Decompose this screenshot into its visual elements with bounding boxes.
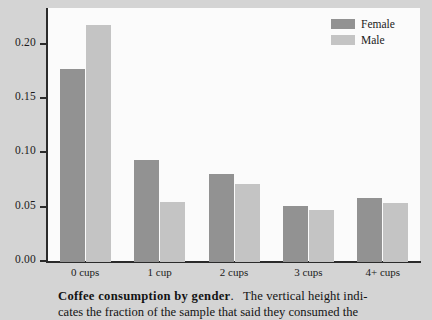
y-tick-label: 0.20 <box>0 36 36 48</box>
bar-female-1-cup <box>134 160 159 262</box>
caption-body: The vertical height indi- <box>243 289 368 303</box>
caption-title-suffix: . <box>230 289 233 303</box>
y-tick-mark <box>40 260 47 262</box>
legend-swatch <box>331 35 355 45</box>
legend-label: Female <box>361 18 395 30</box>
y-tick-mark <box>40 151 47 153</box>
y-tick-label: 0.10 <box>0 144 36 156</box>
bar-female-2-cups <box>209 174 234 262</box>
y-tick-mark <box>40 43 47 45</box>
y-tick-label: 0.00 <box>0 253 36 265</box>
legend-item: Female <box>331 17 395 31</box>
caption-title: Coffee consumption by gender <box>58 289 230 303</box>
x-tick-label: 2 cups <box>196 266 272 278</box>
bar-female-0-cups <box>60 69 85 262</box>
bar-female-4-cups <box>357 198 382 262</box>
x-tick-label: 1 cup <box>122 266 198 278</box>
bar-male-2-cups <box>235 184 260 262</box>
y-tick-mark <box>40 206 47 208</box>
bar-female-3-cups <box>283 206 308 262</box>
x-tick-label: 3 cups <box>270 266 346 278</box>
y-tick-label: 0.15 <box>0 90 36 102</box>
chart-legend: FemaleMale <box>325 14 402 51</box>
x-tick-label: 4+ cups <box>345 266 421 278</box>
legend-item: Male <box>331 33 395 47</box>
y-tick-mark <box>40 97 47 99</box>
y-tick-label: 0.05 <box>0 199 36 211</box>
bar-male-3-cups <box>309 210 334 262</box>
bar-male-4-cups <box>383 203 408 262</box>
bar-male-0-cups <box>86 25 111 262</box>
x-tick-label: 0 cups <box>47 266 123 278</box>
caption-line-2: cates the fraction of the sample that sa… <box>58 304 418 320</box>
bar-male-1-cup <box>160 202 185 262</box>
legend-swatch <box>331 19 355 29</box>
legend-label: Male <box>361 34 385 46</box>
figure-caption: Coffee consumption by gender. The vertic… <box>58 288 418 304</box>
